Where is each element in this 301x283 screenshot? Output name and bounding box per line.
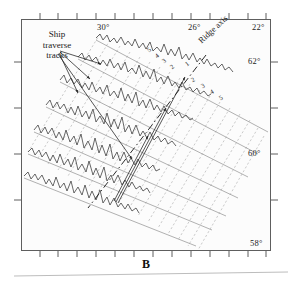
- axis-label-22w: 22°: [252, 22, 265, 32]
- panel-letter-b: B: [142, 257, 150, 272]
- top-axis-ticks: [40, 13, 266, 19]
- left-axis-ticks: [14, 62, 21, 200]
- figure-bottom-rule: [14, 272, 288, 276]
- magnetic-anomaly-profiles: [24, 34, 233, 213]
- ship-tracks-line-3: tracks: [28, 50, 86, 61]
- right-axis-ticks: [271, 62, 278, 200]
- axis-label-60n: 60°: [248, 148, 261, 158]
- axis-label-58n: 58°: [250, 238, 263, 248]
- ship-traverse-tracks-label: Ship traverse tracks: [28, 29, 86, 61]
- axis-label-62n: 62°: [248, 56, 261, 66]
- bottom-axis-ticks: [40, 251, 266, 257]
- ship-tracks-line-1: Ship: [28, 29, 86, 40]
- ridge-axis-line: [88, 55, 206, 208]
- figure-panel-b: 30° 26° 22° 62° 60° 58° Ship traverse tr…: [0, 0, 301, 283]
- axis-label-30w: 30°: [97, 22, 110, 32]
- ship-tracks-line-2: traverse: [28, 40, 86, 51]
- axis-label-26w: 26°: [188, 22, 201, 32]
